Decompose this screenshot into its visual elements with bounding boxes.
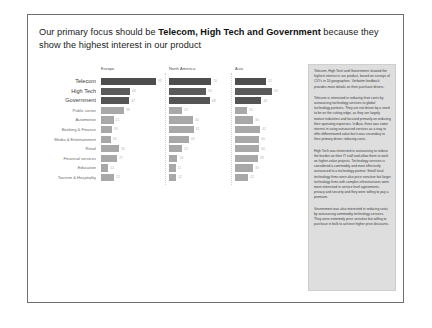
bar-row: 44 (235, 96, 295, 106)
bar-row: 40 (235, 135, 295, 145)
bar (101, 78, 156, 85)
bar-row: 11 (169, 163, 229, 173)
bar-row: 22 (101, 173, 161, 183)
bar (169, 155, 177, 162)
headline-prefix: Our primary focus should be (39, 27, 158, 37)
bar-row: 16 (101, 135, 161, 145)
bar (235, 136, 259, 143)
bar-value-label: 11 (178, 165, 182, 171)
bar-row: 22 (169, 106, 229, 116)
bar (101, 164, 108, 171)
bar-track: 7062682240413322141112 (169, 77, 229, 183)
bar-row: 14 (169, 154, 229, 164)
bar-value-label: 21 (116, 117, 120, 123)
bar-row: 62 (169, 87, 229, 97)
bar-value-label: 18 (114, 126, 118, 132)
bar-value-label: 47 (131, 98, 135, 104)
bar-value-label: 40 (261, 136, 265, 142)
bar-row: 40 (235, 144, 295, 154)
bar (169, 136, 189, 143)
bar-value-label: 27 (119, 155, 123, 161)
bar-row: 62 (235, 87, 295, 97)
bar-value-label: 70 (213, 78, 217, 84)
chart-panel-europe: Europe 9248473821181630271222 (101, 65, 161, 73)
bar-row: 38 (235, 154, 295, 164)
bar-value-label: 62 (208, 88, 212, 94)
bar (101, 107, 124, 114)
panel-title: Europe (101, 65, 161, 73)
bar-row: 41 (169, 125, 229, 135)
category-label: Media & Entertainment (39, 135, 96, 145)
bar-value-label: 40 (195, 117, 199, 123)
bar-row: 52 (235, 77, 295, 87)
bar-value-label: 12 (178, 174, 182, 180)
bar-value-label: 14 (179, 155, 183, 161)
narrative-panel: Telecom, High Tech and Government showed… (308, 64, 396, 291)
bar-value-label: 38 (126, 107, 130, 113)
bar-value-label: 22 (184, 146, 188, 152)
chart-panel-asia: Asia 5262442030424040383022 (235, 65, 295, 73)
bar-value-label: 41 (196, 126, 200, 132)
category-label: Public sector (39, 106, 96, 116)
bar (169, 174, 176, 181)
bar (101, 136, 111, 143)
bar-value-label: 42 (262, 126, 266, 132)
bar-row: 22 (169, 144, 229, 154)
bar (169, 126, 194, 133)
bar (169, 145, 182, 152)
bar (169, 164, 176, 171)
bar (235, 126, 260, 133)
bar-row: 12 (101, 163, 161, 173)
industry-interest-chart: TelecomHigh TechGovernmentPublic sectorA… (39, 65, 297, 185)
narrative-paragraph: Telecom, High Tech and Government showed… (314, 69, 391, 90)
bar (235, 88, 272, 95)
slide-frame: Our primary focus should be Telecom, Hig… (27, 14, 404, 303)
category-label: Telecom (39, 77, 96, 87)
bar-row: 30 (235, 163, 295, 173)
category-label-column: TelecomHigh TechGovernmentPublic sectorA… (39, 77, 96, 183)
headline-emphasis: Telecom, High Tech and Government (158, 27, 321, 37)
bar-value-label: 30 (121, 146, 125, 152)
category-label: Financial services (39, 154, 96, 164)
bar (101, 97, 129, 104)
bar-track: 5262442030424040383022 (235, 77, 295, 183)
bar-row: 27 (101, 154, 161, 164)
bar (169, 97, 210, 104)
bar-row: 48 (101, 87, 161, 97)
bar-row: 30 (101, 144, 161, 154)
bar (235, 107, 247, 114)
bar (169, 107, 182, 114)
bar-row: 42 (235, 125, 295, 135)
bar-track: 9248473821181630271222 (101, 77, 161, 183)
bar (169, 78, 211, 85)
bar (235, 164, 253, 171)
page-title: Our primary focus should be Telecom, Hig… (39, 26, 389, 52)
bar-value-label: 20 (249, 107, 253, 113)
bar-row: 30 (235, 115, 295, 125)
bar-value-label: 30 (255, 165, 259, 171)
bar-row: 20 (235, 106, 295, 116)
chart-panel-north-america: North America 7062682240413322141112 (169, 65, 229, 73)
bar-value-label: 12 (110, 165, 114, 171)
bar (235, 155, 258, 162)
bar-row: 92 (101, 77, 161, 87)
bar-value-label: 48 (132, 88, 136, 94)
bar-value-label: 52 (268, 78, 272, 84)
narrative-paragraph: High Tech was interested in outsourcing … (314, 149, 391, 201)
category-label: Retail (39, 144, 96, 154)
bar-row: 47 (101, 96, 161, 106)
category-label: Banking & Finance (39, 125, 96, 135)
narrative-paragraph: Telecom is interested in reducing their … (314, 96, 391, 143)
bar-row: 18 (101, 125, 161, 135)
bar-value-label: 22 (250, 174, 254, 180)
bar-value-label: 38 (260, 155, 264, 161)
narrative-paragraph: Government was also interested in reduci… (314, 207, 391, 228)
bar-row: 70 (169, 77, 229, 87)
bar (101, 174, 114, 181)
bar-row: 68 (169, 96, 229, 106)
panel-divider-1 (165, 73, 166, 185)
bar (101, 116, 114, 123)
bar-row: 40 (169, 115, 229, 125)
bar-row: 38 (101, 106, 161, 116)
bar-row: 33 (169, 135, 229, 145)
